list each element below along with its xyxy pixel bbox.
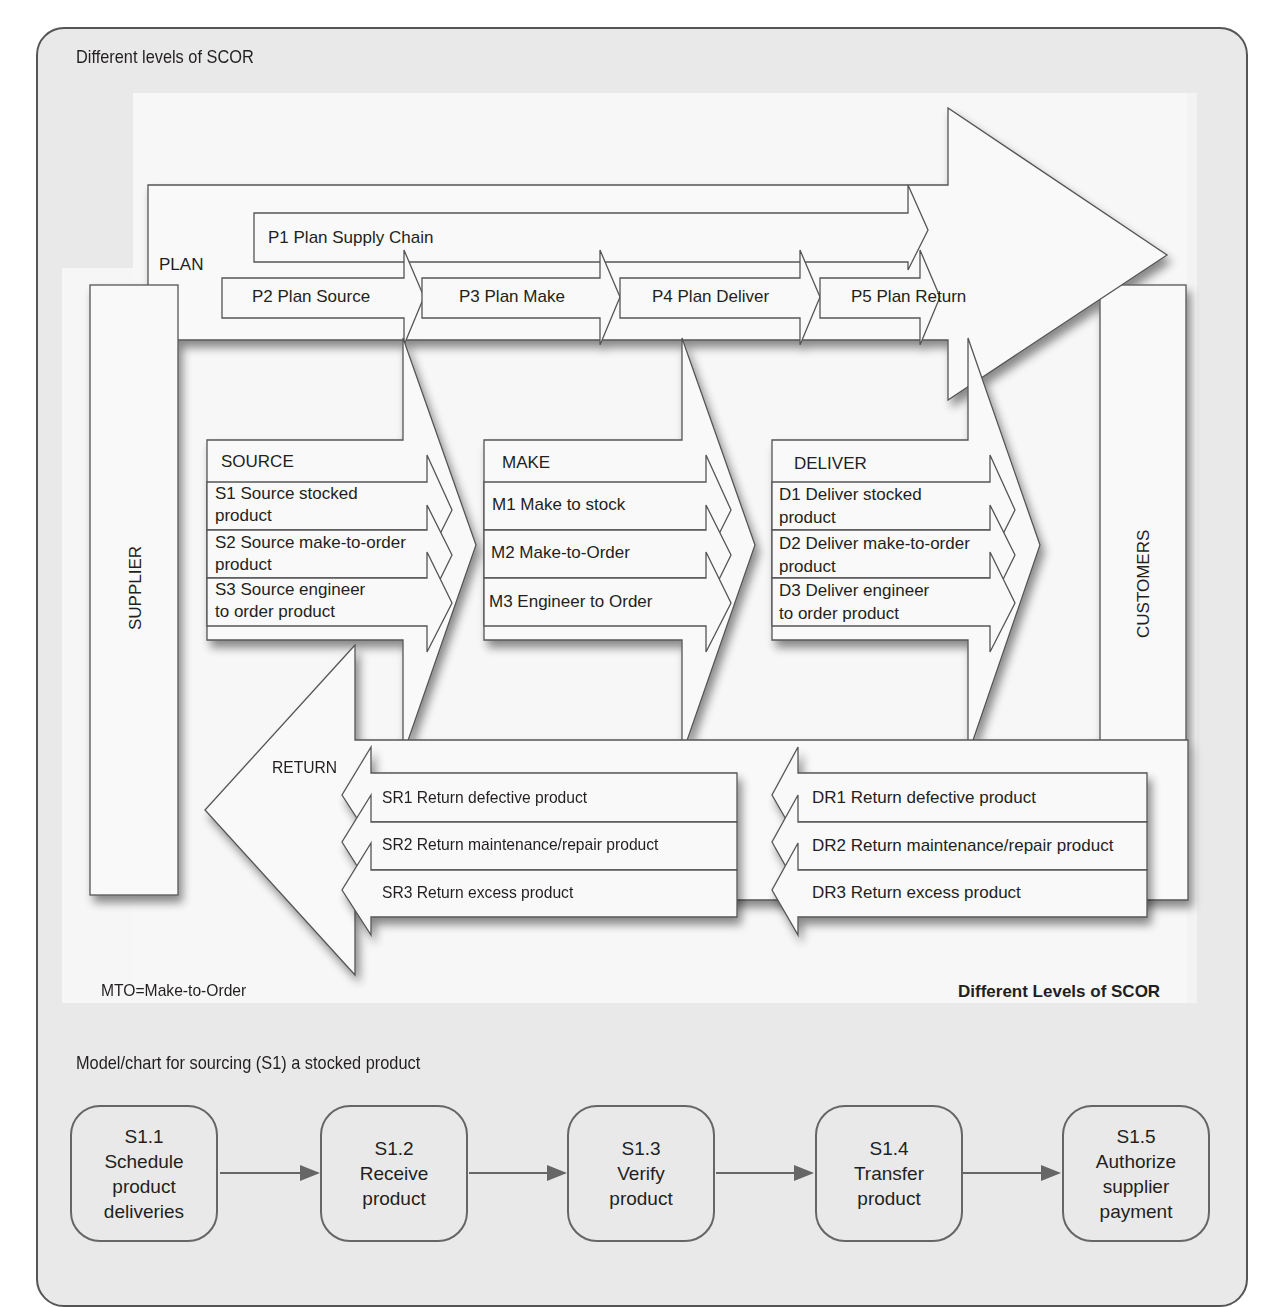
flow-step-s1-4: S1.4 Transfer product xyxy=(815,1105,963,1242)
customers-label: CUSTOMERS xyxy=(1134,538,1154,638)
make-label: MAKE xyxy=(502,452,550,474)
step-id: S1.5 xyxy=(1116,1124,1155,1149)
step-text-line: Receive xyxy=(360,1161,429,1186)
deliver-label: DELIVER xyxy=(794,453,867,475)
step-id: S1.4 xyxy=(869,1136,908,1161)
step-id: S1.2 xyxy=(374,1136,413,1161)
flow-step-s1-2: S1.2 Receive product xyxy=(320,1105,468,1242)
flow-arrow-1 xyxy=(220,1172,318,1174)
return-dr3: DR3 Return excess product xyxy=(812,882,1021,904)
plan-label: PLAN xyxy=(159,254,203,276)
deliver-d1-line2: product xyxy=(779,507,836,529)
source-label: SOURCE xyxy=(221,451,294,473)
source-s2-line2: product xyxy=(215,554,272,576)
source-s3-line1: S3 Source engineer xyxy=(215,579,365,601)
step-text-line: Authorize xyxy=(1096,1149,1176,1174)
step-text-line: Schedule xyxy=(104,1149,183,1174)
diagram-caption: Different Levels of SCOR xyxy=(958,982,1160,1002)
deliver-d3-line2: to order product xyxy=(779,603,899,625)
make-m2: M2 Make-to-Order xyxy=(491,542,630,564)
step-text-line: product xyxy=(362,1186,425,1211)
flow-arrow-2 xyxy=(469,1172,565,1174)
plan-p4: P4 Plan Deliver xyxy=(652,286,769,308)
source-s3-line2: to order product xyxy=(215,601,335,623)
flow-step-s1-3: S1.3 Verify product xyxy=(567,1105,715,1242)
deliver-d3-line1: D3 Deliver engineer xyxy=(779,580,929,602)
step-text-line: product xyxy=(857,1186,920,1211)
deliver-d2-line2: product xyxy=(779,556,836,578)
plan-p1: P1 Plan Supply Chain xyxy=(268,227,433,249)
supplier-label: SUPPLIER xyxy=(126,541,146,636)
step-text-line: product xyxy=(112,1174,175,1199)
source-s1-line1: S1 Source stocked xyxy=(215,483,358,505)
return-label: RETURN xyxy=(272,757,337,779)
return-dr2: DR2 Return maintenance/repair product xyxy=(812,835,1113,857)
flow-title: Model/chart for sourcing (S1) a stocked … xyxy=(76,1052,420,1074)
flow-arrow-4 xyxy=(963,1172,1059,1174)
step-text-line: Transfer xyxy=(854,1161,924,1186)
make-m3: M3 Engineer to Order xyxy=(489,591,652,613)
make-m1: M1 Make to stock xyxy=(492,494,625,516)
step-text-line: Verify xyxy=(617,1161,665,1186)
step-id: S1.1 xyxy=(124,1124,163,1149)
step-text-line: payment xyxy=(1100,1199,1173,1224)
plan-p2: P2 Plan Source xyxy=(252,286,370,308)
step-id: S1.3 xyxy=(621,1136,660,1161)
deliver-d1-line1: D1 Deliver stocked xyxy=(779,484,922,506)
return-dr1: DR1 Return defective product xyxy=(812,787,1036,809)
step-text-line: product xyxy=(609,1186,672,1211)
flow-step-s1-5: S1.5 Authorize supplier payment xyxy=(1062,1105,1210,1242)
flow-step-s1-1: S1.1 Schedule product deliveries xyxy=(70,1105,218,1242)
plan-p5: P5 Plan Return xyxy=(851,286,966,308)
return-sr3: SR3 Return excess product xyxy=(382,882,573,904)
step-text-line: supplier xyxy=(1103,1174,1170,1199)
return-sr2: SR2 Return maintenance/repair product xyxy=(382,834,658,856)
plan-p3: P3 Plan Make xyxy=(459,286,565,308)
flow-arrow-3 xyxy=(716,1172,812,1174)
footnote-mto: MTO=Make-to-Order xyxy=(101,980,246,1002)
step-text-line: deliveries xyxy=(104,1199,184,1224)
source-s1-line2: product xyxy=(215,505,272,527)
return-sr1: SR1 Return defective product xyxy=(382,787,587,809)
deliver-d2-line1: D2 Deliver make-to-order xyxy=(779,533,970,555)
source-s2-line1: S2 Source make-to-order xyxy=(215,532,406,554)
